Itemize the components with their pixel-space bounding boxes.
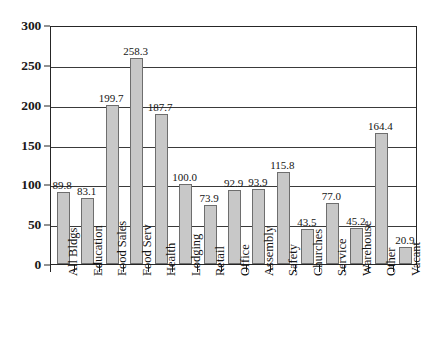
x-axis-category-label: Food Sales: [116, 221, 129, 276]
x-axis-category-label: Retail: [214, 246, 227, 276]
bar-value-label: 199.7: [99, 93, 124, 104]
bar-value-label: 258.3: [123, 46, 148, 57]
bar-value-label: 77.0: [322, 191, 341, 202]
y-axis-tick-label: 200: [21, 99, 41, 113]
bar-chart: 050100150200250300 89.883.1199.7258.3187…: [0, 0, 434, 360]
x-axis-category-label: Service: [336, 239, 349, 276]
x-axis-category-label: Assembly: [263, 226, 276, 276]
bar: [155, 114, 168, 264]
x-axis-tick-mark: [50, 265, 51, 272]
y-axis-tick-label: 0: [34, 258, 41, 272]
bar-value-label: 92.9: [224, 178, 243, 189]
x-axis-category-label: Vacant: [410, 242, 423, 276]
bar-value-label: 43.5: [297, 217, 316, 228]
bar-value-label: 100.0: [172, 172, 197, 183]
bar: [375, 133, 388, 264]
x-axis-category-label: Health: [165, 243, 178, 276]
bar-value-label: 115.8: [270, 160, 294, 171]
x-axis-category-label: Lodging: [190, 234, 203, 276]
bar-value-label: 89.8: [53, 180, 72, 191]
x-axis-category-label: Warehouse: [361, 221, 374, 276]
bar-value-label: 164.4: [368, 121, 393, 132]
bar-value-label: 83.1: [77, 186, 96, 197]
bar-value-label: 93.9: [248, 177, 267, 188]
x-axis-category-label: Education: [92, 225, 105, 276]
y-axis-tick-label: 300: [21, 19, 41, 33]
x-axis-category-label: Other: [385, 248, 398, 276]
y-axis-tick-label: 50: [28, 218, 41, 232]
y-axis-tick-label: 150: [21, 139, 41, 153]
x-axis-category-label: Churches: [312, 229, 325, 276]
x-axis-category-label: Food Serv: [141, 224, 154, 276]
y-axis-tick-labels: 050100150200250300: [0, 0, 41, 360]
y-axis-tick-label: 100: [21, 179, 41, 193]
x-axis-category-label: Office: [239, 244, 252, 276]
x-axis-category-label: All Bldgs: [67, 228, 80, 276]
bar-value-label: 73.9: [199, 193, 218, 204]
y-axis-tick-label: 250: [21, 59, 41, 73]
x-axis-category-label: Safety: [287, 244, 300, 276]
bar-value-label: 187.7: [148, 102, 173, 113]
